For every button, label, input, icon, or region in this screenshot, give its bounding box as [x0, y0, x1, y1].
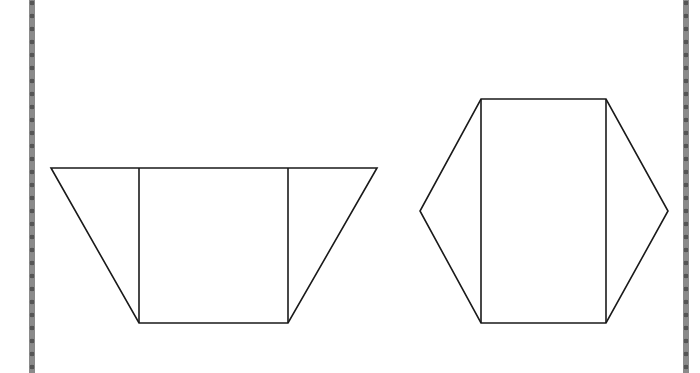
trapezoid-shape: [51, 168, 377, 323]
geometry-diagram: [0, 0, 700, 373]
trapezoid-outline: [51, 168, 377, 323]
hexagon-outline: [420, 99, 668, 323]
hexagon-shape: [420, 99, 668, 323]
